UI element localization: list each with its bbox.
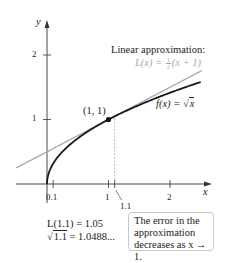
point-1-1 xyxy=(106,117,111,122)
x-axis-label: x xyxy=(203,187,208,198)
note-line-2: approximation xyxy=(134,227,213,239)
point-label: (1, 1) xyxy=(83,106,106,117)
sqrt-symbol: √x xyxy=(183,99,194,110)
linear-formula-rhs: (x + 1) xyxy=(172,57,201,68)
chart-marks xyxy=(16,70,202,184)
x-tick-label-0.1: 0.1 xyxy=(46,193,57,202)
linear-approximation-formula: L(x) = 12(x + 1) xyxy=(135,57,201,70)
one-half-fraction: 12 xyxy=(166,57,171,70)
x-tick-label-2: 2 xyxy=(167,193,172,202)
linear-approximation-title: Linear approximation: xyxy=(111,45,205,56)
note-line-3: decreases as x → 1. xyxy=(134,239,213,263)
y-tick-label-2: 2 xyxy=(32,50,37,59)
x-tick-1.1-leader xyxy=(116,190,122,200)
note-line-1: The error in the xyxy=(134,215,213,227)
y-axis-arrow xyxy=(45,20,50,28)
y-axis-label: y xyxy=(36,17,41,28)
x-tick-label-1.1: 1.1 xyxy=(120,202,131,211)
l-value-text: L(1.1) = 1.05 xyxy=(47,219,103,230)
sqrt-symbol: √1.1 xyxy=(47,232,67,243)
f-function-label: f(x) = √x xyxy=(156,99,194,110)
x-tick-label-1: 1 xyxy=(105,193,110,202)
sqrt-value-text: √1.1 = 1.0488... xyxy=(47,232,115,243)
error-note-box: The error in the approximation decreases… xyxy=(128,212,214,251)
linear-formula-lhs: L(x) = xyxy=(135,57,165,68)
y-tick-label-1: 1 xyxy=(32,114,37,123)
